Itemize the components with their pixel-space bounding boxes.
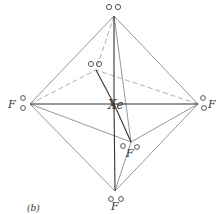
top-lone-pair: [106, 4, 120, 9]
right-F-electrons: [201, 96, 207, 111]
left-F-label: F: [7, 98, 16, 111]
xef4-octahedron-diagram: Xe F F F F (b): [0, 0, 218, 214]
back-lone-pair: [88, 61, 101, 66]
panel-label: (b): [27, 203, 40, 213]
front-F-label: F: [125, 147, 134, 160]
electron-circle: [88, 61, 93, 66]
bottom-F-label: F: [110, 200, 119, 213]
electron-circle: [115, 4, 120, 9]
electron-circle: [106, 4, 111, 9]
left-F-electrons: [21, 96, 26, 111]
center-atom-label: Xe: [107, 98, 124, 112]
right-F-label: F: [207, 98, 216, 111]
